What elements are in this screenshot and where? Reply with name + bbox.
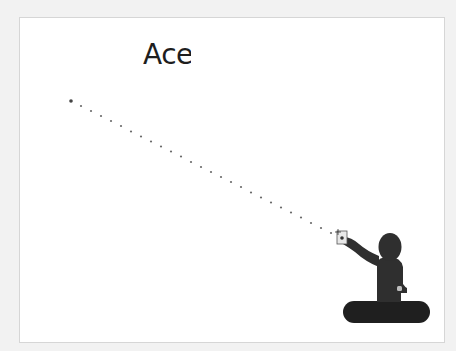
scene-drawing — [20, 18, 445, 343]
held-card-icon — [335, 229, 347, 244]
hand-icon — [397, 286, 402, 291]
rounded-base-icon — [343, 301, 430, 323]
illustration-panel: Ace — [19, 17, 445, 343]
dotted-trajectory-line-icon — [69, 99, 332, 234]
person-pointing-figure-icon — [343, 233, 407, 302]
